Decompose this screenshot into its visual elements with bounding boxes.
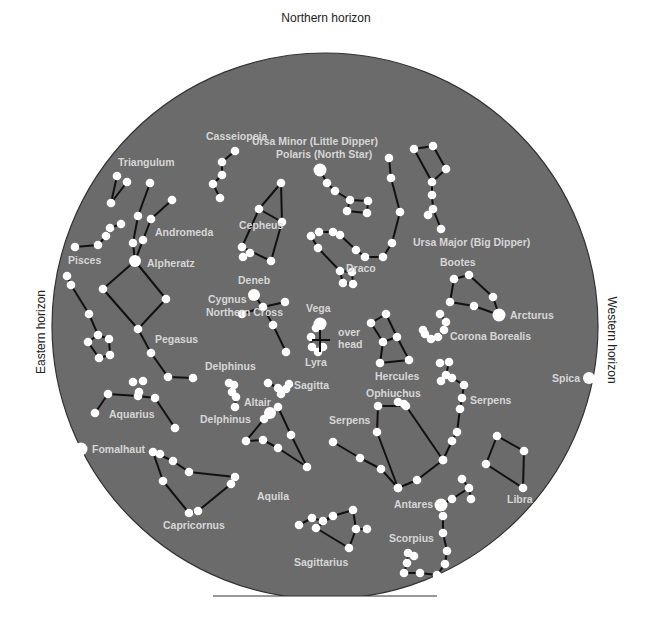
star-icon: [94, 331, 103, 340]
star-icon: [445, 358, 454, 367]
star-icon: [343, 207, 352, 216]
star-icon: [95, 354, 104, 363]
star-icon: [402, 402, 411, 411]
label-capricornus: Capricornus: [163, 519, 225, 531]
label-hercules: Hercules: [375, 370, 420, 382]
star-icon: [467, 495, 476, 504]
label-ursa-major-big-dipper: Ursa Major (Big Dipper): [413, 236, 530, 248]
star-icon: [171, 424, 180, 433]
star-icon: [134, 392, 143, 401]
star-icon: [446, 298, 455, 307]
star-icon: [396, 208, 405, 217]
star-icon: [339, 279, 348, 288]
star-icon: [519, 484, 528, 493]
star-icon: [520, 447, 529, 456]
constellation-line: [523, 451, 524, 488]
star-icon: [482, 460, 491, 469]
star-icon: [346, 196, 355, 205]
star-icon: [329, 228, 338, 237]
star-icon: [269, 321, 278, 330]
bright-star-fomalhaut: [75, 443, 88, 456]
bright-star-altair: [264, 407, 276, 419]
star-icon: [185, 509, 194, 518]
constellation-line: [281, 183, 282, 222]
label-lyra: Lyra: [305, 356, 327, 368]
label-delphinus: Delphinus: [200, 413, 251, 425]
star-icon: [134, 212, 143, 221]
bright-star-vega: [314, 318, 327, 331]
star-icon: [413, 476, 422, 485]
star-icon: [453, 428, 462, 437]
star-icon: [352, 525, 361, 534]
star-icon: [437, 225, 446, 234]
northern-horizon-label: Northern horizon: [281, 11, 370, 25]
star-icon: [364, 197, 373, 206]
label-draco: Draco: [346, 262, 376, 274]
star-icon: [352, 246, 361, 255]
star-icon: [387, 174, 396, 183]
star-icon: [382, 310, 391, 319]
star-icon: [403, 559, 412, 568]
overhead-label-2: head: [338, 338, 363, 350]
star-icon: [393, 333, 402, 342]
star-icon: [164, 373, 173, 382]
star-icon: [189, 374, 198, 383]
star-icon: [259, 436, 268, 445]
star-icon: [106, 351, 115, 360]
star-icon: [356, 454, 365, 463]
star-icon: [151, 394, 160, 403]
star-icon: [379, 338, 388, 347]
star-icon: [159, 477, 168, 486]
star-icon: [458, 394, 467, 403]
star-icon: [162, 295, 171, 304]
label-deneb: Deneb: [238, 274, 270, 286]
star-icon: [105, 335, 114, 344]
star-icon: [117, 220, 126, 229]
star-icon: [231, 403, 240, 412]
star-icon: [295, 521, 304, 530]
star-icon: [194, 507, 203, 516]
star-icon: [336, 267, 345, 276]
star-icon: [440, 326, 449, 335]
label-bootes: Bootes: [440, 256, 476, 268]
star-icon: [400, 569, 409, 578]
star-icon: [448, 495, 457, 504]
star-icon: [147, 349, 156, 358]
star-icon: [385, 154, 394, 163]
star-icon: [255, 205, 264, 214]
star-icon: [442, 165, 451, 174]
star-icon: [470, 302, 479, 311]
star-icon: [465, 484, 474, 493]
label-ursa-minor-little-dipper: Ursa Minor (Little Dipper): [252, 135, 378, 147]
star-icon: [450, 275, 459, 284]
star-icon: [437, 377, 446, 386]
star-icon: [363, 525, 372, 534]
star-icon: [84, 338, 93, 347]
star-icon: [303, 463, 312, 472]
bright-star-deneb: [248, 289, 260, 301]
star-icon: [267, 257, 276, 266]
star-icon: [139, 236, 148, 245]
bright-star-alpheratz: [129, 255, 141, 267]
label-alpheratz: Alpheratz: [147, 257, 195, 269]
star-icon: [377, 465, 386, 474]
star-icon: [314, 244, 323, 253]
star-icon: [147, 215, 156, 224]
star-icon: [308, 514, 317, 523]
star-icon: [439, 456, 448, 465]
star-icon: [67, 281, 76, 290]
star-icon: [373, 428, 382, 437]
label-ophiuchus: Ophiuchus: [366, 387, 421, 399]
star-icon: [442, 318, 451, 327]
star-icon: [419, 326, 428, 335]
star-icon: [489, 293, 498, 302]
star-icon: [329, 512, 338, 521]
star-icon: [129, 239, 138, 248]
star-icon: [448, 437, 457, 446]
label-fomalhaut: Fomalhaut: [92, 443, 146, 455]
star-icon: [104, 390, 113, 399]
star-icon: [282, 348, 291, 357]
star-icon: [363, 209, 372, 218]
star-icon: [102, 232, 111, 241]
star-icon: [218, 158, 227, 167]
